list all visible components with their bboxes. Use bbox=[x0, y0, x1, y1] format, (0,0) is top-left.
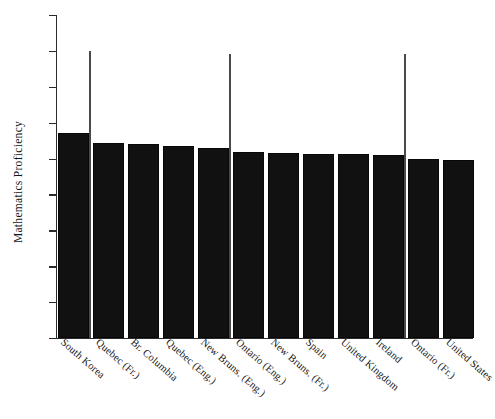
y-tick-300 bbox=[49, 230, 56, 231]
bar bbox=[198, 148, 228, 338]
bar bbox=[303, 154, 333, 338]
bar bbox=[443, 160, 473, 338]
x-axis-label: Ireland bbox=[373, 337, 403, 365]
y-tick-200 bbox=[49, 266, 56, 267]
bar bbox=[128, 144, 158, 338]
bar bbox=[408, 159, 438, 338]
bar bbox=[268, 153, 298, 338]
reference-line bbox=[89, 51, 91, 338]
y-tick-700 bbox=[49, 87, 56, 88]
bar bbox=[338, 154, 368, 338]
reference-line bbox=[404, 54, 406, 338]
bars-layer bbox=[56, 15, 476, 338]
x-axis-label: New Bruns. (Eng.) bbox=[198, 337, 267, 399]
y-tick-600 bbox=[49, 123, 56, 124]
reference-line bbox=[229, 54, 231, 338]
bar bbox=[163, 146, 193, 338]
y-tick-800 bbox=[49, 51, 56, 52]
bar bbox=[233, 152, 263, 338]
bar bbox=[373, 155, 403, 338]
y-tick-900 bbox=[49, 15, 56, 16]
y-tick-400 bbox=[49, 194, 56, 195]
y-tick-500 bbox=[49, 159, 56, 160]
x-axis-labels: South KoreaQuebec (Fr.)Br. ColumbiaQuebe… bbox=[0, 340, 476, 419]
y-axis-title: Mathematics Proficiency bbox=[12, 102, 24, 262]
y-tick-100 bbox=[49, 302, 56, 303]
plot-area bbox=[56, 15, 476, 338]
bar bbox=[58, 133, 88, 338]
x-axis-label: Spain bbox=[303, 337, 329, 361]
bar bbox=[93, 143, 123, 338]
